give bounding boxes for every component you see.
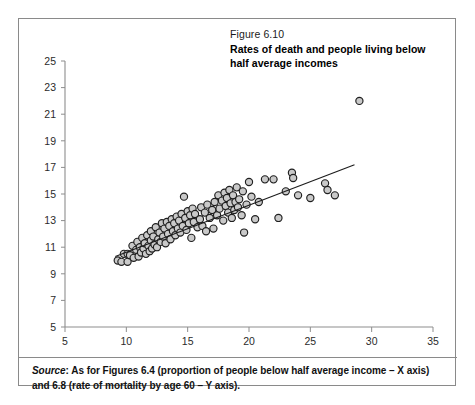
data-point	[294, 192, 301, 199]
scatter-plot-svg: 5791113151719212325 5101520253035	[19, 19, 457, 349]
data-point	[248, 193, 255, 200]
x-tick-label: 35	[427, 335, 439, 347]
y-tick-label: 11	[45, 241, 56, 253]
data-point	[270, 176, 277, 183]
scatter-plot: 5791113151719212325 5101520253035	[19, 19, 457, 349]
trend-line	[115, 165, 354, 257]
figure-frame: Figure 6.10 Rates of death and people li…	[18, 18, 456, 386]
data-point	[275, 214, 282, 221]
source-text: : As for Figures 6.4 (proportion of peop…	[32, 365, 429, 391]
y-tick-label: 23	[44, 81, 56, 93]
y-axis-ticks: 5791113151719212325	[44, 55, 65, 333]
data-point	[210, 225, 217, 232]
x-tick-label: 20	[243, 335, 255, 347]
data-point	[245, 178, 252, 185]
y-tick-label: 7	[50, 294, 56, 306]
data-point	[180, 193, 187, 200]
data-point	[188, 234, 195, 241]
y-tick-label: 5	[50, 321, 56, 333]
source-divider	[19, 357, 457, 358]
data-point	[238, 212, 245, 219]
data-point	[356, 97, 363, 104]
data-point	[307, 194, 314, 201]
data-point	[331, 192, 338, 199]
y-tick-label: 19	[44, 135, 56, 147]
data-points-layer	[114, 97, 363, 265]
data-point	[236, 196, 243, 203]
data-point	[261, 176, 268, 183]
y-tick-label: 9	[50, 268, 56, 280]
y-tick-label: 13	[44, 214, 56, 226]
x-tick-label: 15	[182, 335, 194, 347]
y-tick-label: 15	[44, 188, 56, 200]
x-tick-label: 25	[304, 335, 316, 347]
x-tick-label: 30	[366, 335, 378, 347]
data-point	[252, 216, 259, 223]
data-point	[211, 198, 218, 205]
data-point	[324, 186, 331, 193]
data-point	[220, 217, 227, 224]
y-tick-label: 25	[44, 55, 56, 67]
y-tick-label: 17	[44, 161, 56, 173]
data-point	[240, 229, 247, 236]
source-label: Source	[32, 365, 66, 376]
data-point	[228, 214, 235, 221]
data-point	[202, 228, 209, 235]
x-tick-label: 5	[62, 335, 68, 347]
y-tick-label: 21	[44, 108, 56, 120]
source-note: Source: As for Figures 6.4 (proportion o…	[32, 364, 447, 393]
data-point	[239, 188, 246, 195]
x-tick-label: 10	[120, 335, 132, 347]
x-axis-ticks: 5101520253035	[62, 327, 439, 347]
data-point	[290, 174, 297, 181]
